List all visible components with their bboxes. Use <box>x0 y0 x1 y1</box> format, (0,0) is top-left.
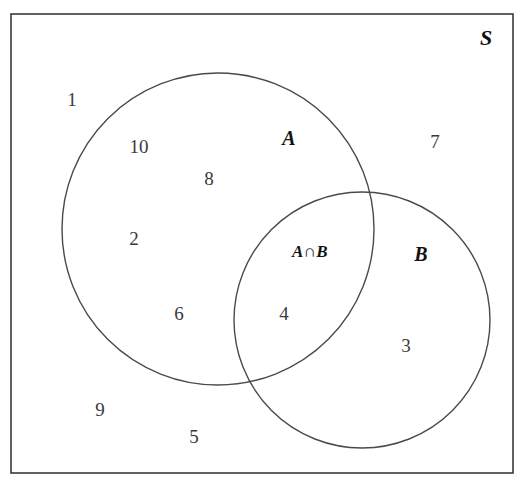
set-b-circle <box>234 192 490 448</box>
element-9: 9 <box>95 400 105 419</box>
element-10: 10 <box>130 137 149 156</box>
element-1: 1 <box>67 90 77 109</box>
universal-set-frame <box>11 14 513 473</box>
element-2: 2 <box>129 229 139 248</box>
set-a-circle <box>62 73 374 385</box>
intersection-label: A∩B <box>292 243 328 260</box>
element-8: 8 <box>204 169 214 188</box>
element-6: 6 <box>174 304 184 323</box>
element-4: 4 <box>279 304 289 323</box>
element-7: 7 <box>430 132 440 151</box>
universal-set-label: S <box>480 27 492 49</box>
element-5: 5 <box>189 427 199 446</box>
set-a-label: A <box>282 128 295 148</box>
venn-diagram-canvas: S A B A∩B 1 10 8 2 6 4 7 3 9 5 <box>0 0 527 483</box>
set-b-label: B <box>414 244 427 264</box>
venn-diagram-graphics <box>0 0 527 483</box>
element-3: 3 <box>401 336 411 355</box>
